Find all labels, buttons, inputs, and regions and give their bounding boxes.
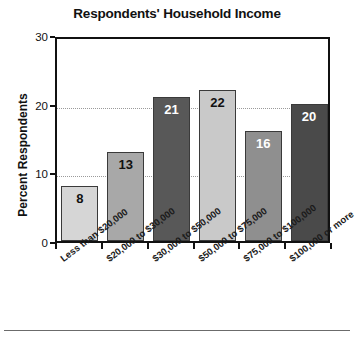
y-tick-label: 0	[42, 237, 48, 249]
y-tick-label: 20	[35, 100, 48, 112]
bar-value-label: 8	[62, 192, 97, 205]
bar-value-label: 22	[200, 96, 235, 109]
bar-value-label: 20	[292, 110, 327, 123]
bottom-divider	[4, 330, 350, 331]
bar-value-label: 13	[108, 158, 143, 171]
x-axis-labels: Less than $20,000$20,000 to $30,000$30,0…	[0, 249, 354, 319]
bar-series: 81321221620	[57, 39, 328, 241]
bar-value-label: 21	[154, 103, 189, 116]
y-tick-label: 10	[35, 168, 48, 180]
y-tick-label: 30	[35, 31, 48, 43]
bar-value-label: 16	[246, 137, 281, 150]
plot-area: 81321221620	[55, 37, 330, 243]
